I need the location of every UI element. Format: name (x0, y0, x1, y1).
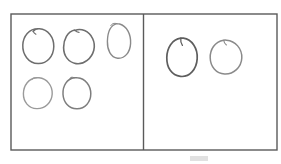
worksheet-drawing (0, 0, 281, 164)
worksheet-canvas (0, 0, 281, 164)
faint-smudge-mark (190, 156, 208, 161)
